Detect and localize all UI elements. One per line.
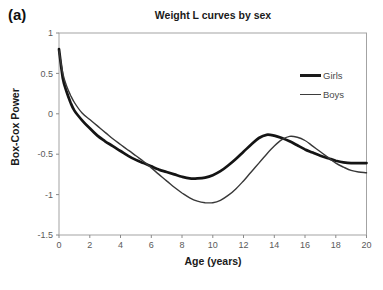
y-tick-label: -1.5 [37, 230, 53, 240]
x-tick-label: 0 [56, 240, 61, 250]
x-tick-label: 16 [300, 240, 310, 250]
x-tick-label: 6 [149, 240, 154, 250]
legend: Girls Boys [300, 66, 344, 104]
x-tick-label: 4 [118, 240, 123, 250]
x-tick-label: 18 [331, 240, 341, 250]
x-tick-label: 8 [179, 240, 184, 250]
y-axis-title: Box-Cox Power [9, 47, 23, 207]
plot-area: 0246810121416182010.50-0.5-1-1.5 [0, 0, 383, 290]
x-tick-label: 14 [269, 240, 279, 250]
x-tick-label: 12 [238, 240, 248, 250]
legend-item-boys: Boys [300, 85, 344, 104]
y-tick-label: -1 [45, 190, 53, 200]
x-axis-title: Age (years) [59, 255, 367, 267]
legend-label-boys: Boys [323, 89, 344, 100]
x-tick-label: 2 [87, 240, 92, 250]
plot-border [59, 33, 367, 235]
legend-item-girls: Girls [300, 66, 344, 85]
y-tick-label: 0.5 [40, 69, 53, 79]
boys-line-sample [300, 94, 321, 96]
x-tick-label: 10 [208, 240, 218, 250]
y-tick-label: 1 [48, 28, 53, 38]
x-tick-label: 20 [361, 240, 371, 250]
y-tick-label: 0 [48, 109, 53, 119]
legend-label-girls: Girls [323, 70, 343, 81]
figure: (a) Weight L curves by sex 0246810121416… [0, 0, 383, 290]
y-tick-label: -0.5 [37, 149, 53, 159]
girls-line-sample [300, 74, 321, 77]
